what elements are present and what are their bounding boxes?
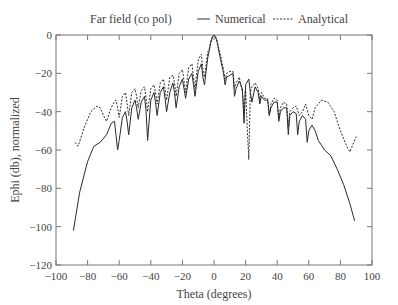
legend-analytical-label: Analytical (298, 12, 349, 26)
x-tick-label: −40 (142, 270, 160, 282)
y-tick-label: 0 (47, 29, 53, 41)
y-tick-label: −40 (35, 106, 53, 118)
x-tick-label: 40 (272, 270, 284, 282)
x-tick-label: 100 (364, 270, 381, 282)
y-tick-label: −60 (35, 144, 53, 156)
x-tick-label: −20 (174, 270, 192, 282)
y-tick-label: −80 (35, 182, 53, 194)
x-tick-label: −80 (79, 270, 97, 282)
x-tick-label: 60 (303, 270, 315, 282)
analytical-series-line (75, 35, 356, 160)
y-axis-label: Ephi (db), normalized (8, 97, 22, 203)
y-tick-label: −120 (29, 259, 52, 271)
far-field-chart: Far field (co pol) Numerical Analytical … (0, 0, 398, 305)
y-tick-label: −20 (35, 67, 53, 79)
x-tick-label: −60 (111, 270, 129, 282)
x-axis: −100−80−60−40−20020406080100 (45, 35, 381, 282)
numerical-series-line (73, 35, 354, 231)
x-tick-label: 20 (240, 270, 252, 282)
legend: Far field (co pol) Numerical Analytical (90, 12, 349, 26)
legend-numerical-label: Numerical (215, 12, 266, 26)
x-axis-label: Theta (degrees) (177, 287, 252, 301)
x-tick-label: 80 (335, 270, 347, 282)
x-tick-label: 0 (211, 270, 217, 282)
plot-series (73, 35, 356, 231)
legend-title: Far field (co pol) (90, 12, 172, 26)
y-tick-label: −100 (29, 221, 52, 233)
x-tick-label: −100 (45, 270, 68, 282)
